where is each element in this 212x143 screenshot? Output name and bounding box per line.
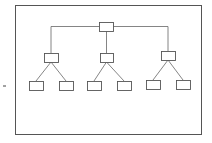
node-leaf-5: [147, 81, 161, 90]
node-leaf-3: [88, 82, 102, 91]
node-mid-center: [101, 54, 114, 63]
node-root: [100, 23, 114, 32]
node-leaf-1: [30, 82, 44, 91]
node-leaf-6: [177, 81, 191, 90]
node-leaf-2: [60, 82, 74, 91]
node-leaf-4: [118, 82, 132, 91]
tree-diagram: [0, 0, 212, 143]
node-mid-right: [162, 52, 176, 61]
node-mid-left: [45, 54, 59, 63]
